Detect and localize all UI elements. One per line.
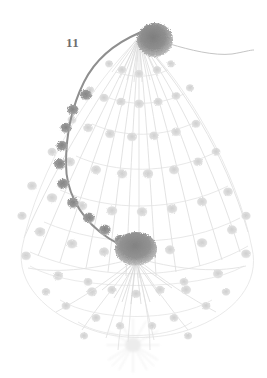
trailing-filament (170, 44, 254, 54)
lower-skirt-node-group (42, 278, 231, 340)
apex-flower-head (137, 23, 173, 57)
central-flower-head (115, 232, 157, 266)
botanical-figure (0, 0, 267, 378)
illustration-plate: 11 (0, 0, 267, 378)
figure-number-label: 11 (66, 36, 79, 49)
